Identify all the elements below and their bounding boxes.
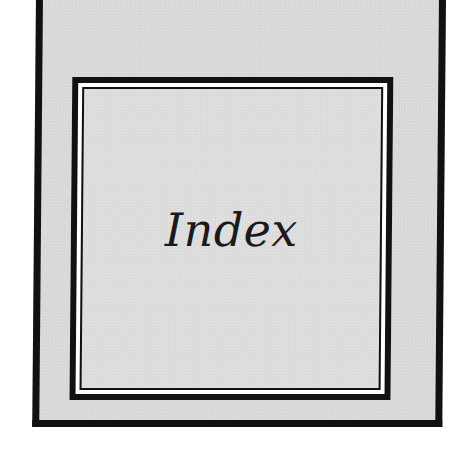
title-frame: Index xyxy=(69,77,393,400)
page-title: Index xyxy=(83,207,380,253)
page-sheet: Index xyxy=(32,0,446,427)
title-panel: Index xyxy=(80,87,384,390)
